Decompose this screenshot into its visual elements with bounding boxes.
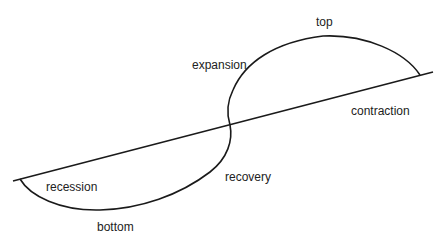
cycle-curve-lower: [20, 125, 231, 210]
label-recession: recession: [46, 180, 97, 194]
label-top: top: [316, 15, 333, 29]
label-contraction: contraction: [351, 104, 410, 118]
business-cycle-diagram: [0, 0, 444, 238]
label-expansion: expansion: [192, 58, 247, 72]
label-recovery: recovery: [225, 170, 271, 184]
trend-line: [13, 72, 433, 181]
label-bottom: bottom: [97, 220, 134, 234]
